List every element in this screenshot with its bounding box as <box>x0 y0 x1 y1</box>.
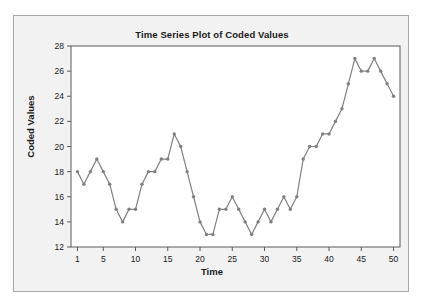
y-tick-label: 18 <box>55 167 65 177</box>
data-point <box>360 69 363 72</box>
data-point <box>95 157 98 160</box>
x-tick-label: 35 <box>292 254 302 264</box>
data-point <box>334 120 337 123</box>
x-tick-label: 45 <box>357 254 367 264</box>
data-point <box>127 208 130 211</box>
data-point <box>276 208 279 211</box>
chart-page: Time Series Plot of Coded Values Coded V… <box>0 0 422 308</box>
data-point <box>250 233 253 236</box>
data-point <box>327 132 330 135</box>
data-point <box>379 69 382 72</box>
chart-panel: Time Series Plot of Coded Values Coded V… <box>13 15 409 292</box>
y-tick-label: 14 <box>55 217 65 227</box>
time-series-plot: 12141618202224262815101520253035404550 <box>14 16 410 293</box>
data-point <box>347 82 350 85</box>
x-tick-label: 1 <box>75 254 80 264</box>
data-point <box>76 170 79 173</box>
data-point <box>289 208 292 211</box>
data-point <box>263 208 266 211</box>
data-point <box>140 182 143 185</box>
data-point <box>173 132 176 135</box>
data-point <box>256 220 259 223</box>
plot-area-wrapper: 12141618202224262815101520253035404550 <box>14 16 410 293</box>
data-point <box>353 57 356 60</box>
y-tick-label: 20 <box>55 142 65 152</box>
data-point <box>121 220 124 223</box>
data-point <box>108 182 111 185</box>
x-tick-label: 15 <box>163 254 173 264</box>
y-tick-label: 16 <box>55 192 65 202</box>
data-point <box>224 208 227 211</box>
x-tick-label: 25 <box>228 254 238 264</box>
y-tick-label: 12 <box>55 242 65 252</box>
data-point <box>385 82 388 85</box>
data-point <box>114 208 117 211</box>
data-point <box>166 157 169 160</box>
data-point <box>153 170 156 173</box>
data-point <box>211 233 214 236</box>
y-tick-label: 26 <box>55 66 65 76</box>
data-point <box>134 208 137 211</box>
data-point <box>366 69 369 72</box>
data-point <box>218 208 221 211</box>
data-point <box>82 182 85 185</box>
data-point <box>231 195 234 198</box>
data-point <box>205 233 208 236</box>
y-tick-label: 28 <box>55 41 65 51</box>
x-tick-label: 40 <box>324 254 334 264</box>
data-point <box>160 157 163 160</box>
x-tick-label: 30 <box>260 254 270 264</box>
data-point <box>147 170 150 173</box>
data-point <box>192 195 195 198</box>
y-tick-label: 24 <box>55 91 65 101</box>
data-point <box>185 170 188 173</box>
y-tick-label: 22 <box>55 116 65 126</box>
data-point <box>308 145 311 148</box>
data-point <box>89 170 92 173</box>
data-point <box>392 95 395 98</box>
data-point <box>302 157 305 160</box>
data-point <box>295 195 298 198</box>
data-point <box>314 145 317 148</box>
data-point <box>282 195 285 198</box>
data-point <box>179 145 182 148</box>
x-tick-label: 10 <box>131 254 141 264</box>
data-point <box>243 220 246 223</box>
x-tick-label: 50 <box>389 254 399 264</box>
data-point <box>102 170 105 173</box>
x-tick-label: 20 <box>195 254 205 264</box>
data-point <box>237 208 240 211</box>
data-point <box>269 220 272 223</box>
data-point <box>198 220 201 223</box>
data-point <box>321 132 324 135</box>
x-tick-label: 5 <box>101 254 106 264</box>
data-point <box>373 57 376 60</box>
data-point <box>340 107 343 110</box>
